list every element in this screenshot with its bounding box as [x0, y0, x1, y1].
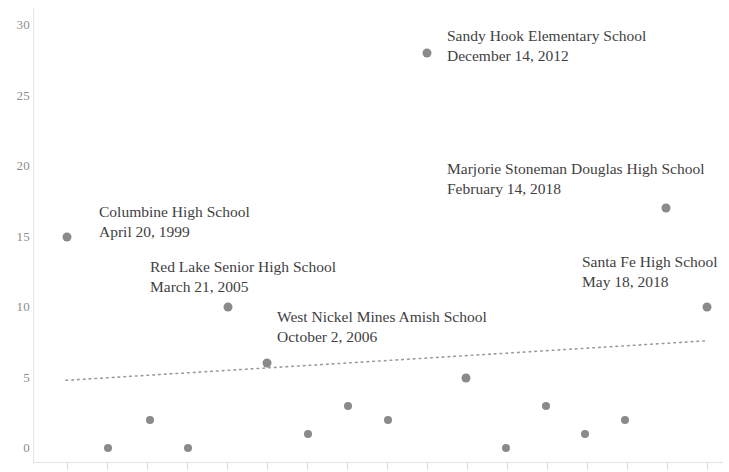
y-tick-0: 0 [0, 441, 30, 454]
data-point-labeled[interactable] [662, 204, 671, 213]
x-tick [227, 462, 228, 470]
data-point[interactable] [502, 444, 510, 452]
data-point[interactable] [184, 444, 192, 452]
y-tick-30: 30 [0, 18, 30, 31]
annotation-columbine: Columbine High SchoolApril 20, 1999 [99, 202, 250, 242]
data-point[interactable] [344, 402, 352, 410]
annotation-date: October 2, 2006 [277, 327, 487, 347]
x-tick [307, 462, 308, 470]
annotation-school-name: West Nickel Mines Amish School [277, 308, 487, 325]
y-tick-25: 25 [0, 89, 30, 102]
annotation-school-name: Red Lake Senior High School [150, 258, 336, 275]
y-tick-20: 20 [0, 159, 30, 172]
data-point[interactable] [462, 373, 471, 382]
x-tick [707, 462, 708, 470]
y-tick-label: 0 [0, 441, 30, 454]
data-point-labeled[interactable] [423, 49, 432, 58]
annotation-santa-fe: Santa Fe High SchoolMay 18, 2018 [582, 252, 718, 292]
annotation-west-nickel-mines: West Nickel Mines Amish SchoolOctober 2,… [277, 307, 487, 347]
y-tick-label: 5 [0, 371, 30, 384]
data-point[interactable] [581, 430, 589, 438]
annotation-school-name: Marjorie Stoneman Douglas High School [447, 160, 704, 177]
y-tick-10: 10 [0, 300, 30, 313]
x-tick [267, 462, 268, 470]
scatter-chart: 051015202530 Sandy Hook Elementary Schoo… [0, 0, 729, 472]
annotation-sandy-hook: Sandy Hook Elementary SchoolDecember 14,… [447, 26, 646, 66]
x-tick [627, 462, 628, 470]
data-point-labeled[interactable] [263, 359, 272, 368]
data-point[interactable] [104, 444, 112, 452]
data-point-labeled[interactable] [703, 303, 712, 312]
y-tick-label: 20 [0, 159, 30, 172]
annotation-date: April 20, 1999 [99, 222, 250, 242]
data-point[interactable] [304, 430, 312, 438]
x-axis-line [33, 462, 723, 463]
y-tick-5: 5 [0, 371, 30, 384]
x-tick [507, 462, 508, 470]
x-tick [547, 462, 548, 470]
y-tick-label: 25 [0, 89, 30, 102]
y-tick-label: 30 [0, 18, 30, 31]
annotation-date: February 14, 2018 [447, 179, 704, 199]
data-point-labeled[interactable] [63, 232, 72, 241]
annotation-school-name: Sandy Hook Elementary School [447, 27, 646, 44]
x-tick [467, 462, 468, 470]
y-axis-line [33, 8, 34, 464]
data-point-labeled[interactable] [224, 303, 233, 312]
annotation-date: May 18, 2018 [582, 272, 718, 292]
annotation-date: December 14, 2012 [447, 46, 646, 66]
x-tick [187, 462, 188, 470]
x-tick [667, 462, 668, 470]
data-point[interactable] [384, 416, 392, 424]
x-tick [107, 462, 108, 470]
x-tick [347, 462, 348, 470]
y-tick-label: 15 [0, 230, 30, 243]
y-tick-15: 15 [0, 230, 30, 243]
annotation-school-name: Santa Fe High School [582, 253, 718, 270]
annotation-date: March 21, 2005 [150, 277, 336, 297]
x-tick [427, 462, 428, 470]
data-point[interactable] [621, 416, 629, 424]
x-tick [67, 462, 68, 470]
x-tick [587, 462, 588, 470]
data-point[interactable] [542, 402, 550, 410]
data-point[interactable] [146, 416, 154, 424]
annotation-school-name: Columbine High School [99, 203, 250, 220]
y-tick-label: 10 [0, 300, 30, 313]
annotation-red-lake: Red Lake Senior High SchoolMarch 21, 200… [150, 257, 336, 297]
x-tick [147, 462, 148, 470]
x-tick [387, 462, 388, 470]
annotation-marjorie-stoneman-douglas: Marjorie Stoneman Douglas High SchoolFeb… [447, 159, 704, 199]
